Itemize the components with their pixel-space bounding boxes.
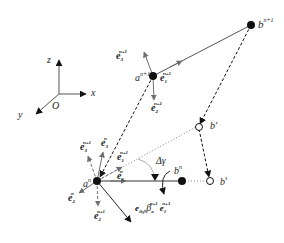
label-e3-n-low: e3n bbox=[101, 136, 108, 149]
label-b-n1: bn+1 bbox=[258, 17, 274, 30]
label-b-s: bs bbox=[220, 175, 228, 187]
point-b-n bbox=[178, 177, 186, 185]
label-e2-n1-top: e2n+1 bbox=[151, 101, 162, 114]
label-e1-n1-top: e1n+1 bbox=[160, 71, 171, 84]
label-e3-n1-top: e3n+1 bbox=[116, 49, 127, 62]
label-e1-n-low: e1n bbox=[117, 169, 124, 182]
angle-arrowhead bbox=[151, 174, 159, 181]
label-e2-n1-low: e2n+1 bbox=[94, 209, 105, 222]
diagram-canvas: z x y O bn+1 an+1 an bbox=[0, 0, 284, 243]
origin-label: O bbox=[52, 100, 59, 111]
label-rotation-expr: eΔγ,βan+1e1n+1 bbox=[135, 201, 170, 214]
dashed-b-n1-to-b-prime bbox=[200, 25, 251, 124]
label-e2-n-low: e2n bbox=[68, 191, 75, 204]
label-e3-n1-low: e3n+1 bbox=[80, 140, 91, 153]
point-a-n1 bbox=[149, 72, 157, 80]
label-delta-gamma: Δγ bbox=[155, 155, 167, 166]
e1-n1-top-arrow bbox=[170, 61, 182, 67]
rotation-axis-vector bbox=[97, 181, 131, 222]
e3-n-low-vector bbox=[97, 152, 103, 181]
label-b-prime: b′ bbox=[210, 120, 218, 131]
y-axis-label: y bbox=[17, 109, 23, 120]
point-a-n bbox=[93, 177, 101, 185]
point-b-s bbox=[207, 178, 214, 185]
coordinate-axes: z x y O bbox=[17, 54, 96, 120]
label-a-n1: an+1 bbox=[135, 71, 150, 83]
point-b-prime bbox=[196, 124, 203, 131]
label-e1-n1-low: e1n+1 bbox=[117, 150, 128, 163]
angle-arc bbox=[138, 159, 155, 181]
segment-a-n1-b-n1 bbox=[153, 25, 251, 76]
label-b-n: bn bbox=[174, 164, 182, 176]
point-b-n1 bbox=[247, 21, 255, 29]
dashed-b-prime-to-b-s bbox=[199, 129, 209, 177]
label-a-n: an bbox=[83, 177, 91, 189]
z-axis-label: z bbox=[46, 54, 51, 65]
rotation-arrow bbox=[162, 171, 170, 194]
x-axis-label: x bbox=[90, 87, 96, 98]
